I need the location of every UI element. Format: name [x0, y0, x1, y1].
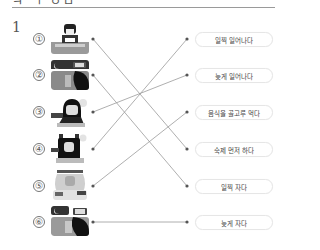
left-dot-3[interactable] — [91, 110, 94, 113]
sleeping-late-illustration-icon — [51, 206, 89, 236]
eating-illustration-icon — [51, 170, 89, 200]
answer-label: 숙제 먼저 하다 — [214, 145, 254, 155]
homework-illustration-icon — [51, 134, 89, 164]
night-clock-illustration-icon — [51, 60, 89, 90]
answer-box-1[interactable]: 일찍 일어나다 — [195, 32, 273, 47]
picture-waking-up — [51, 97, 89, 127]
answer-box-5[interactable]: 일찍 자다 — [195, 179, 273, 194]
picture-sleeping-late — [51, 206, 89, 236]
picture-homework — [51, 134, 89, 164]
right-dot-6[interactable] — [185, 220, 188, 223]
right-dot-4[interactable] — [185, 147, 188, 150]
connection-line-2-5 — [93, 75, 187, 186]
left-dot-4[interactable] — [91, 147, 94, 150]
answer-box-3[interactable]: 음식을 골고루 먹다 — [195, 105, 273, 120]
item-number-3: ③ — [33, 106, 45, 118]
answer-label: 늦게 자다 — [221, 218, 247, 228]
right-dot-5[interactable] — [185, 184, 188, 187]
answer-label: 일찍 자다 — [221, 182, 247, 192]
answer-label: 늦게 일어나다 — [215, 71, 253, 81]
left-dot-5[interactable] — [91, 184, 94, 187]
item-number-5: ⑤ — [33, 180, 45, 192]
right-dot-1[interactable] — [185, 37, 188, 40]
item-number-4: ④ — [33, 143, 45, 155]
picture-night-clock — [51, 60, 89, 90]
answer-box-2[interactable]: 늦게 일어나다 — [195, 68, 273, 83]
left-dot-6[interactable] — [91, 220, 94, 223]
left-dot-2[interactable] — [91, 73, 94, 76]
left-dot-1[interactable] — [91, 37, 94, 40]
right-dot-3[interactable] — [185, 110, 188, 113]
item-number-2: ② — [33, 69, 45, 81]
answer-label: 일찍 일어나다 — [215, 35, 253, 45]
item-number-6: ⑥ — [33, 216, 45, 228]
right-dot-2[interactable] — [185, 73, 188, 76]
picture-eating — [51, 170, 89, 200]
waking-up-illustration-icon — [51, 97, 89, 127]
answer-box-6[interactable]: 늦게 자다 — [195, 215, 273, 230]
studying-illustration-icon — [51, 24, 89, 54]
picture-studying — [51, 24, 89, 54]
answer-label: 음식을 골고루 먹다 — [208, 108, 260, 118]
item-number-1: ① — [33, 33, 45, 45]
connection-line-5-3 — [93, 112, 187, 186]
answer-box-4[interactable]: 숙제 먼저 하다 — [195, 142, 273, 157]
